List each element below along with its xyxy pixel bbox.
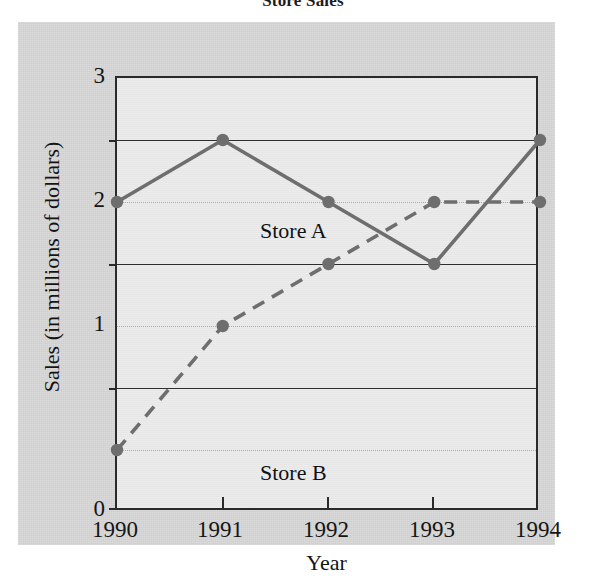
- y-tick-label-1: 1: [77, 312, 105, 335]
- data-point: [428, 258, 440, 270]
- data-point: [111, 444, 123, 456]
- y-axis-tick-labels: 3 2 1 0: [65, 76, 105, 510]
- figure-panel: Sales (in millions of dollars) 3 2 1 0 S…: [18, 22, 555, 545]
- y-tick-mark-0: [109, 508, 116, 510]
- y-tick-mark-3: [109, 140, 116, 142]
- data-point: [111, 196, 123, 208]
- x-tick-label-1993: 1993: [392, 518, 472, 541]
- data-point: [322, 196, 334, 208]
- y-tick-label-2: 2: [77, 188, 105, 211]
- y-tick-mark-1: [109, 388, 116, 390]
- data-point: [534, 196, 546, 208]
- series-line-store-b: [117, 202, 540, 450]
- x-tick-label-1992: 1992: [286, 518, 366, 541]
- y-tick-label-3: 3: [77, 64, 105, 87]
- data-point: [428, 196, 440, 208]
- x-axis-title: Year: [115, 550, 538, 576]
- x-tick-label-1994: 1994: [498, 518, 578, 541]
- x-axis-tick-labels: 1990 1991 1992 1993 1994: [115, 518, 538, 548]
- series-plot: [117, 78, 540, 512]
- data-point: [217, 320, 229, 332]
- series-label-store-b: Store B: [260, 460, 327, 486]
- chart-title: Store Sales: [0, 0, 606, 11]
- x-tick-label-1991: 1991: [180, 518, 260, 541]
- x-tick-label-1990: 1990: [75, 518, 155, 541]
- data-point: [534, 134, 546, 146]
- data-point: [322, 258, 334, 270]
- data-point: [217, 134, 229, 146]
- series-label-store-a: Store A: [260, 218, 327, 244]
- y-tick-mark-2: [109, 264, 116, 266]
- y-axis-title: Sales (in millions of dollars): [39, 57, 65, 477]
- plot-area: Store A Store B: [115, 76, 538, 510]
